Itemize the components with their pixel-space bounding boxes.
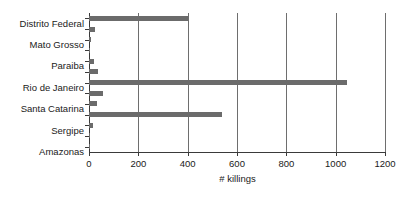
bar — [89, 48, 90, 53]
bar-chart: Distrito FederalMato GrossoParaibaRio de… — [0, 0, 409, 199]
y-axis-tick — [85, 147, 89, 148]
y-axis-tick — [85, 83, 89, 84]
bar — [89, 133, 90, 138]
y-axis-tick — [85, 72, 89, 73]
bar — [89, 101, 97, 106]
y-axis-label: Rio de Janeiro — [5, 83, 89, 93]
x-axis-tick-label: 1000 — [325, 158, 346, 169]
bar — [89, 37, 91, 42]
bar — [89, 27, 95, 32]
y-axis-label: Mato Grosso — [5, 40, 89, 50]
x-axis-tick-label: 800 — [278, 158, 294, 169]
x-axis-title: # killings — [89, 173, 386, 184]
bar — [89, 59, 94, 64]
y-axis-label: Amazonas — [5, 147, 89, 157]
x-axis-tick-label: 600 — [229, 158, 245, 169]
bar — [89, 91, 103, 96]
bar — [89, 144, 90, 149]
y-axis-tick — [85, 104, 89, 105]
bar — [89, 16, 188, 21]
y-axis-tick — [85, 115, 89, 116]
y-axis-tick — [85, 40, 89, 41]
y-axis-tick — [85, 61, 89, 62]
plot-area — [89, 13, 385, 152]
y-axis-tick — [85, 125, 89, 126]
y-axis-label: Paraiba — [5, 61, 89, 71]
bar — [89, 123, 93, 128]
bars — [89, 13, 385, 152]
bar — [89, 69, 98, 74]
x-axis-tick-label: 1200 — [374, 158, 395, 169]
y-axis-label: Distrito Federal — [5, 19, 89, 29]
gridline — [385, 13, 386, 152]
y-axis-label: Sergipe — [5, 126, 89, 136]
y-axis-labels: Distrito FederalMato GrossoParaibaRio de… — [0, 0, 89, 199]
y-axis-tick — [85, 18, 89, 19]
x-axis-tick-label: 400 — [180, 158, 196, 169]
y-axis-tick — [85, 29, 89, 30]
y-axis-tick — [85, 50, 89, 51]
x-axis-tick — [237, 152, 238, 156]
x-axis-tick-label: 0 — [86, 158, 91, 169]
x-axis-tick-label: 200 — [130, 158, 146, 169]
x-axis-tick — [89, 152, 90, 156]
x-axis-tick — [138, 152, 139, 156]
bar — [89, 80, 347, 85]
y-axis-label: Santa Catarina — [5, 104, 89, 114]
x-axis-tick — [188, 152, 189, 156]
x-axis-tick — [385, 152, 386, 156]
x-axis-tick — [336, 152, 337, 156]
y-axis-tick — [85, 93, 89, 94]
y-axis-tick — [85, 136, 89, 137]
bar — [89, 112, 222, 117]
x-axis-tick — [286, 152, 287, 156]
